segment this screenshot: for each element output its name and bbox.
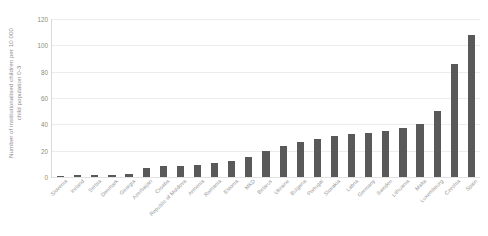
x-axis-tick-label: Estonia (222, 178, 239, 195)
x-axis-tick-label: Malta (414, 178, 428, 192)
bar (91, 175, 98, 177)
x-axis-tick-label: Romania (202, 178, 222, 198)
y-axis-tick-label: 120 (30, 16, 48, 23)
bar (399, 128, 406, 177)
bar (228, 161, 235, 177)
bar (245, 157, 252, 177)
bar (348, 134, 355, 177)
x-axis-tick-label: Armenia (186, 178, 205, 197)
x-axis-tick-label: Slovakia (323, 178, 342, 197)
bar (451, 64, 458, 177)
x-axis-tick-label: Spain (465, 178, 479, 192)
y-axis-tick-label: 20 (30, 147, 48, 154)
x-axis-tick-label: Serbia (87, 178, 102, 193)
bars-layer (52, 19, 480, 177)
x-axis-tick-label: Belarus (256, 178, 273, 195)
y-axis-title-line-1: Number of institutionalised children per… (7, 28, 15, 158)
bar (416, 124, 423, 177)
y-axis-tick-label: 80 (30, 68, 48, 75)
x-axis-tick-label: Denmark (99, 178, 119, 198)
x-axis-tick-label: Czechia (443, 178, 461, 196)
bar (468, 35, 475, 177)
y-axis-tick-label: 60 (30, 95, 48, 102)
y-axis-tick-label: 0 (30, 174, 48, 181)
bar (262, 151, 269, 177)
bar (434, 111, 441, 177)
x-axis-tick-label: Ukraine (273, 178, 290, 195)
bar (143, 168, 150, 177)
bar (297, 142, 304, 177)
x-axis-tick-label: Lithuania (390, 178, 410, 198)
bar (331, 136, 338, 177)
y-axis-tick-label: 100 (30, 42, 48, 49)
y-axis-title-line-2: child population 0-3 (15, 28, 23, 158)
bar (194, 165, 201, 178)
bar (280, 146, 287, 177)
x-axis-tick-label: Ireland (69, 178, 85, 194)
bar (74, 175, 81, 177)
bar (365, 133, 372, 177)
x-axis-tick-label: Slovenia (49, 178, 68, 197)
bar (57, 176, 64, 177)
x-axis-tick-label: Latvia (344, 178, 359, 193)
bar-chart: Number of institutionalised children per… (0, 0, 488, 236)
x-axis-tick-labels: SloveniaIrelandSerbiaDenmarkGeorgiaAzerb… (52, 178, 480, 236)
bar (314, 139, 321, 177)
y-axis-tick-label: 40 (30, 121, 48, 128)
bar (125, 174, 132, 177)
x-axis-tick-label: MKD (243, 178, 256, 191)
bar (160, 166, 167, 177)
x-axis-tick-label: Bulgaria (289, 178, 307, 196)
bar (211, 163, 218, 177)
plot-area (52, 19, 480, 177)
bar (177, 166, 184, 177)
x-axis-tick-label: Portugal (306, 178, 325, 197)
bar (382, 131, 389, 177)
y-axis-tick-labels: 020406080100120 (26, 19, 48, 177)
